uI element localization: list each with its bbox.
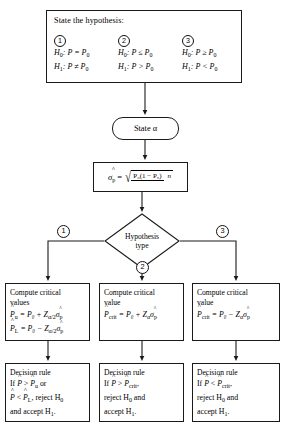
- state-alpha-label: State α: [134, 124, 157, 133]
- sigma-p-hat: σp^: [243, 309, 250, 323]
- p-symbol: P: [17, 379, 22, 388]
- alt-expression: : P > P: [127, 62, 151, 71]
- p-hat-statistic: P^: [17, 378, 22, 391]
- decision-rule-line-1: If P^ > P^u or: [10, 378, 89, 392]
- decision-node-line-2: type: [135, 241, 148, 251]
- decision-rule-box-2: Decision rule If P^ > P^crit, reject H0 …: [99, 363, 184, 422]
- fraction-numerator: P₀(1 − P₀): [131, 172, 163, 181]
- hypothesis-case-number-3: 3: [182, 35, 194, 47]
- alt-expression-subscript: 0: [214, 66, 217, 72]
- compute-critical-value-box-2: Compute critical value P^crit = P₀ + Zασ…: [99, 283, 184, 341]
- and-keyword: and: [225, 393, 238, 402]
- p-hat-accent: ^: [11, 387, 14, 394]
- critical-value-equation: P^crit = P₀ + Zασp^: [104, 309, 183, 323]
- comparison-operator: >: [116, 379, 124, 388]
- null-expression-subscript: 0: [213, 52, 216, 58]
- alt-expression: : P < P: [191, 62, 215, 71]
- compute-critical-values-box-1: Compute critical values P^u = P₀ + Zα/2σ…: [5, 283, 90, 341]
- p-hat-upper-ref: P^: [30, 378, 35, 391]
- compute-critical-value-box-3: Compute critical value P^crit = P₀ − Zασ…: [192, 283, 280, 341]
- branch-label-3: 3: [216, 225, 229, 238]
- alt-expression-subscript: 0: [150, 66, 153, 72]
- or-keyword: or: [38, 379, 46, 388]
- reject-text: reject H: [197, 393, 222, 402]
- p0-plus-z: = P₀ + Z: [119, 310, 147, 319]
- hypothesis-test-flowchart: State the hypothesis: 1 H0: P = P0 H1: P…: [0, 0, 285, 432]
- hypothesis-statement-box: State the hypothesis: 1 H0: P = P0 H1: P…: [46, 10, 242, 83]
- decision-rule-line-2: P^ < P^L, reject H0: [10, 392, 89, 406]
- accept-text: accept H: [104, 407, 132, 416]
- p-symbol: P: [111, 379, 116, 388]
- compute-title-line-2: value: [104, 298, 183, 308]
- p-hat-crit: P^: [197, 309, 202, 322]
- decision-rule-line-1: If P^ < P^crit,: [197, 378, 279, 392]
- decision-rule-line-1: If P^ > P^crit,: [104, 378, 183, 392]
- fraction: P₀(1 − P₀) n: [131, 172, 173, 181]
- sigma-p-hat: σp^: [150, 309, 157, 323]
- p-symbol: P: [104, 310, 109, 319]
- sigma-subscript: p: [154, 313, 157, 319]
- period: .: [54, 407, 56, 416]
- alt-expression: : P ≠ P: [63, 62, 86, 71]
- sigma-hat-accent: ^: [112, 166, 115, 173]
- branch-label-1: 1: [57, 225, 70, 238]
- decision-rule-box-1: Decision rule If P^ > P^u or P^ < P^L, r…: [5, 363, 90, 422]
- state-alpha-box: State α: [112, 117, 179, 140]
- decision-rule-line-3: and accept H1.: [10, 406, 89, 420]
- z-subscript: α/2: [48, 313, 56, 319]
- compute-title-line-1: Compute critical: [10, 288, 89, 298]
- p-hat-statistic: P^: [10, 392, 15, 405]
- sigma-subscript: p: [112, 176, 115, 182]
- null-expression: : P = P: [63, 48, 87, 57]
- sigma-p-hat: σp^: [56, 323, 63, 337]
- equals-sign: =: [115, 172, 124, 182]
- p-hat-accent: ^: [18, 373, 21, 380]
- decision-rule-title: Decision rule: [104, 368, 183, 378]
- standard-error-formula: σp^ = √ P₀(1 − P₀) n: [94, 163, 187, 191]
- decision-rule-line-2: reject H0 and: [104, 392, 183, 406]
- p-hat-accent: ^: [218, 373, 221, 380]
- crit-subscript: crit: [202, 313, 210, 319]
- hypothesis-case-number-2: 2: [118, 35, 130, 47]
- hypothesis-case-number-1: 1: [54, 35, 66, 47]
- null-expression-subscript: 0: [86, 52, 89, 58]
- p-symbol: P: [30, 379, 35, 388]
- p-hat-accent: ^: [105, 303, 108, 310]
- p-hat-accent: ^: [11, 303, 14, 310]
- critical-value-upper-equation: P^u = P₀ + Zα/2σp^: [10, 309, 89, 323]
- sigma-term: σp^: [108, 172, 115, 183]
- null-expression-subscript: 0: [149, 52, 152, 58]
- p-hat-accent: ^: [24, 387, 27, 394]
- p-hat-accent: ^: [112, 373, 115, 380]
- hypothesis-null-2: H0: P ≤ P0: [118, 47, 182, 61]
- compute-title-line-1: Compute critical: [197, 288, 279, 298]
- null-expression: : P ≥ P: [191, 48, 214, 57]
- sigma-hat-accent: ^: [60, 319, 63, 326]
- alt-expression-subscript: 0: [85, 66, 88, 72]
- hypothesis-alt-2: H1: P > P0: [118, 61, 182, 75]
- period: .: [135, 407, 137, 416]
- p-symbol: P: [10, 324, 15, 333]
- p-symbol: P: [204, 379, 209, 388]
- p-symbol: P: [23, 393, 28, 402]
- and-keyword: and: [132, 393, 145, 402]
- p-hat-crit-ref: P^: [217, 378, 222, 391]
- p0-minus-z: = P₀ − Z: [212, 310, 240, 319]
- p-hat-accent: ^: [205, 373, 208, 380]
- p-hat-statistic: P^: [204, 378, 209, 391]
- decision-rule-line-3: accept H1.: [197, 406, 279, 420]
- h0-subscript: 0: [60, 397, 63, 403]
- null-expression: : P ≤ P: [127, 48, 150, 57]
- critical-value-lower-equation: P^L = P₀ − Zα/2σp^: [10, 323, 89, 337]
- p-hat-accent: ^: [31, 373, 34, 380]
- crit-subscript: crit: [109, 313, 117, 319]
- p-hat-accent: ^: [11, 317, 14, 324]
- decision-node-line-1: Hypothesis: [125, 232, 159, 242]
- p-symbol: P: [197, 310, 202, 319]
- hypothesis-alt-3: H1: P < P0: [182, 61, 246, 75]
- p-symbol: P: [124, 379, 129, 388]
- hypothesis-columns: 1 H0: P = P0 H1: P ≠ P0 2 H0: P ≤ P0 H1:…: [54, 29, 241, 77]
- p-symbol: P: [10, 393, 15, 402]
- critical-value-equation: P^crit = P₀ − Zασp^: [197, 309, 279, 323]
- sigma-hat-accent: ^: [247, 305, 250, 312]
